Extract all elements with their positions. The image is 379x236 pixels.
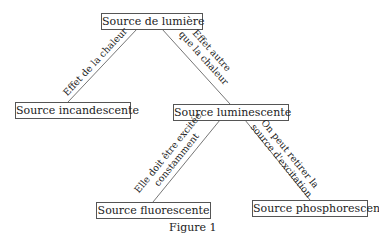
node-source-fluorescente: Source fluorescente [96,202,211,219]
node-source-incandescente: Source incandescente [15,102,131,119]
node-source-phosphorescente: Source phosphorescente [252,200,368,217]
edge-root-incandescent [68,29,137,102]
figure-caption: Figure 1 [169,221,217,234]
